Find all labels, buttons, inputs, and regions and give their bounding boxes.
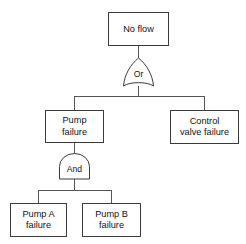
fault-tree-diagram: No flow Or Pump failure Control valve fa… — [0, 0, 246, 244]
control-valve-failure-label-line2: valve failure — [180, 127, 229, 137]
fault-tree-canvas: No flow Or Pump failure Control valve fa… — [0, 0, 246, 244]
and-gate-label: And — [67, 164, 83, 174]
node-control-valve-failure[interactable]: Control valve failure — [171, 111, 239, 144]
pump-b-failure-label-line1: Pump B — [95, 209, 128, 219]
or-gate[interactable]: Or — [124, 58, 154, 86]
node-pump-failure[interactable]: Pump failure — [46, 111, 104, 143]
and-gate[interactable]: And — [60, 154, 90, 180]
node-top-event[interactable]: No flow — [109, 13, 169, 46]
pump-failure-label-line2: failure — [62, 127, 87, 137]
or-gate-label: Or — [134, 69, 144, 79]
pump-a-failure-label-line1: Pump A — [22, 209, 55, 219]
top-event-label-line1: No flow — [123, 24, 154, 34]
control-valve-failure-label-line1: Control — [190, 116, 220, 126]
pump-b-failure-label-line2: failure — [99, 220, 124, 230]
node-pump-a-failure[interactable]: Pump A failure — [11, 204, 67, 237]
pump-a-failure-label-line2: failure — [26, 220, 51, 230]
pump-failure-label-line1: Pump — [62, 115, 86, 125]
node-pump-b-failure[interactable]: Pump B failure — [83, 204, 141, 237]
